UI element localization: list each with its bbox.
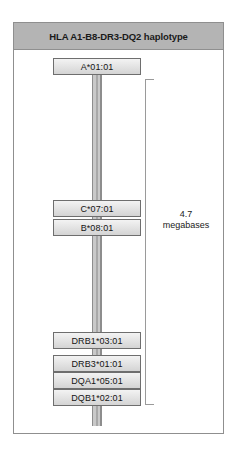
allele-label: DQB1*02:01 — [71, 393, 123, 403]
allele-box-hla-a: A*01:01 — [53, 58, 141, 75]
allele-label: DRB3*01:01 — [71, 359, 122, 369]
allele-label: A*01:01 — [81, 62, 114, 72]
allele-box-hla-b: B*08:01 — [53, 219, 141, 236]
span-bracket — [145, 79, 154, 405]
scale-unit: megabases — [154, 220, 218, 231]
figure-header-band: HLA A1-B8-DR3-DQ2 haplotype — [14, 23, 223, 50]
scale-annotation: 4.7 megabases — [154, 209, 218, 231]
allele-label: B*08:01 — [81, 223, 114, 233]
allele-label: DRB1*03:01 — [71, 336, 122, 346]
allele-box-hla-c: C*07:01 — [53, 200, 141, 217]
allele-label: DQA1*05:01 — [71, 376, 123, 386]
scale-value: 4.7 — [154, 209, 218, 220]
allele-box-hla-dqa1: DQA1*05:01 — [53, 372, 141, 389]
allele-box-hla-drb1: DRB1*03:01 — [53, 332, 141, 349]
haplotype-figure: HLA A1-B8-DR3-DQ2 haplotype A*01:01C*07:… — [13, 22, 224, 434]
allele-label: C*07:01 — [80, 204, 113, 214]
figure-title: HLA A1-B8-DR3-DQ2 haplotype — [49, 31, 188, 42]
allele-box-hla-drb3: DRB3*01:01 — [53, 355, 141, 372]
allele-box-hla-dqb1: DQB1*02:01 — [53, 389, 141, 406]
